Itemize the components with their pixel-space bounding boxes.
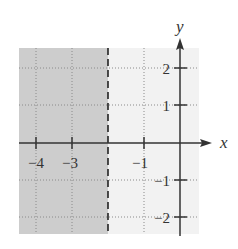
y-tick-label-1: 1: [163, 98, 171, 114]
shaded-region: [19, 48, 108, 234]
y-tick-label-2: 2: [163, 61, 171, 77]
x-tick-label-m1: −1: [132, 155, 148, 171]
y-axis-label: y: [174, 17, 184, 36]
x-axis-label: x: [219, 133, 228, 152]
x-tick-label-m3: −3: [62, 155, 78, 171]
x-tick-label-m4: −4: [28, 155, 44, 171]
y-tick-label-m2: −2: [154, 210, 170, 226]
y-tick-label-m1: −1: [154, 173, 170, 189]
coordinate-plane: −4 −3 −1 2 1 −1 −2 x y: [0, 0, 238, 249]
